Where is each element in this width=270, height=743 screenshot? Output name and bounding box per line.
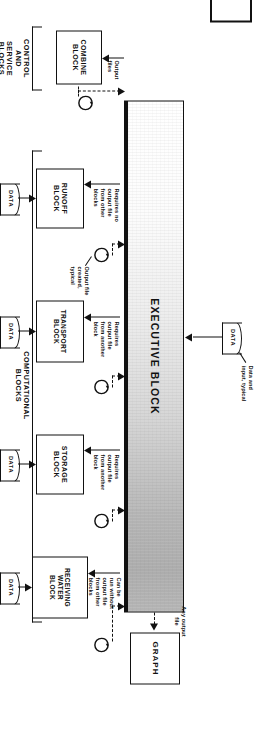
exec-to-graph-link xyxy=(154,612,155,624)
computational-bracket xyxy=(32,150,42,622)
requires-no-output-line2: output file xyxy=(106,188,113,244)
any-output-file-line2: file xyxy=(173,598,180,644)
data-input-line1: Data and xyxy=(247,365,254,435)
exec-to-runoff-line xyxy=(90,183,120,184)
exec-to-receiving-line xyxy=(94,572,120,573)
receiving-to-exec-dashed-h xyxy=(112,605,113,641)
output-files-line2: files xyxy=(106,60,113,100)
exec-to-transport-line xyxy=(90,316,120,317)
storage-block-label-line2: BLOCK xyxy=(52,451,60,478)
requires-output-line1: Requires xyxy=(113,454,120,512)
requires-output-line3: from another xyxy=(99,321,106,379)
combine-block-label-line1: COMBINE xyxy=(79,39,87,75)
receiving-tape-reel-icon xyxy=(93,636,110,653)
runoff-reel-leader xyxy=(85,256,92,266)
annotation-any-output-file: Any output file xyxy=(173,598,187,644)
transport-block-label-line2: BLOCK xyxy=(53,319,60,344)
exec-to-combine-line xyxy=(108,57,124,58)
transport-to-exec-dashed-h xyxy=(112,375,113,387)
diagram-canvas: EXECUTIVE BLOCK GRAPH Any output file DA… xyxy=(0,0,270,743)
runoff-block-label-line1: RUNOFF xyxy=(60,182,68,214)
any-output-file-line1: Any output xyxy=(180,598,187,644)
computational-line1: COMPUTATIONAL xyxy=(22,300,30,470)
computational-line2: BLOCKS xyxy=(13,300,21,470)
exec-to-storage-arrow xyxy=(84,446,91,454)
requires-no-output-line1: Requires no xyxy=(113,188,120,244)
exec-to-storage-line xyxy=(90,449,120,450)
requires-output-line2: output file xyxy=(106,454,113,512)
data-symbol-label: DATA xyxy=(230,322,236,352)
annotation-requires-output-storage: Requires output file from another block xyxy=(92,454,120,512)
executive-block: EXECUTIVE BLOCK xyxy=(124,100,184,612)
combine-to-exec-dashed-vert xyxy=(78,90,120,91)
storage-tape-reel-icon xyxy=(93,512,110,529)
exec-to-receiving-arrow xyxy=(88,569,95,577)
runoff-to-exec-arrow xyxy=(118,240,125,248)
group-label-control-service: CONTROL AND SERVICE BLOCKS xyxy=(0,10,30,106)
receiving-to-exec-arrow xyxy=(118,602,125,610)
receiving-water-block-label-line1: RECEIVING xyxy=(64,568,71,607)
annotation-requires-output-transport: Requires output file from another block xyxy=(92,321,120,379)
receiving-water-block-label-line2: WATER xyxy=(56,575,63,600)
runoff-to-exec-dashed-h xyxy=(112,243,113,255)
data-input-line2: input, typical xyxy=(240,365,247,435)
can-be-run-line3: output file xyxy=(101,577,108,629)
annotation-requires-no-output: Requires no output file from other block… xyxy=(92,188,120,244)
storage-block-label-line1: STORAGE xyxy=(60,445,68,482)
figure-stage: EXECUTIVE BLOCK GRAPH Any output file DA… xyxy=(0,0,270,743)
receiving-data-arrow xyxy=(25,583,32,591)
control-line3: SERVICE xyxy=(5,10,13,106)
storage-block: STORAGE BLOCK xyxy=(36,434,84,494)
combine-block: COMBINE BLOCK xyxy=(56,30,102,84)
control-service-bracket xyxy=(32,26,42,90)
exec-to-graph-arrow xyxy=(151,623,159,630)
storage-to-exec-dashed-h xyxy=(112,509,113,521)
receiving-water-block-label-line3: BLOCK xyxy=(49,575,56,600)
requires-output-line3: from another xyxy=(99,454,106,512)
cropped-frame-box xyxy=(210,0,252,22)
can-be-run-line5: blocks xyxy=(87,577,94,629)
combine-tape-reel-icon xyxy=(77,94,94,111)
group-label-computational: COMPUTATIONAL BLOCKS xyxy=(13,300,30,470)
data-symbol-executive: DATA xyxy=(223,322,242,352)
executive-block-label: EXECUTIVE BLOCK xyxy=(150,298,162,414)
runoff-tape-reel-icon xyxy=(93,246,110,263)
requires-no-output-line3: from other xyxy=(99,188,106,244)
combine-to-exec-arrow xyxy=(118,87,125,95)
exec-to-runoff-arrow xyxy=(84,180,91,188)
data-to-exec-arrow xyxy=(185,333,192,341)
graph-block-label: GRAPH xyxy=(151,641,160,675)
transport-block-label-line1: TRANSPORT xyxy=(60,309,67,353)
transport-tape-reel-icon xyxy=(93,378,110,395)
transport-to-exec-arrow xyxy=(118,372,125,380)
requires-output-line1: Requires xyxy=(113,321,120,379)
annotation-data-and-input-typical: Data and input, typical xyxy=(240,365,254,435)
data-leader-line xyxy=(239,352,246,363)
runoff-block: RUNOFF BLOCK xyxy=(36,168,84,228)
storage-to-exec-arrow xyxy=(118,506,125,514)
requires-output-line2: output file xyxy=(106,321,113,379)
annotation-can-be-run: Can be run without output file from othe… xyxy=(87,577,122,629)
transport-block: TRANSPORT BLOCK xyxy=(36,300,84,362)
control-line4: BLOCKS xyxy=(0,10,5,106)
requires-no-output-line4: blocks xyxy=(92,188,99,244)
can-be-run-line4: from other xyxy=(94,577,101,629)
requires-output-line4: block xyxy=(92,454,99,512)
requires-output-line4: block xyxy=(92,321,99,379)
data-symbol-label: DATA xyxy=(8,183,14,213)
runoff-block-label-line2: BLOCK xyxy=(52,185,60,212)
data-to-exec-line xyxy=(193,336,223,337)
data-symbol-label: DATA xyxy=(8,572,14,602)
exec-to-transport-arrow xyxy=(84,313,91,321)
control-line2: AND xyxy=(13,10,21,106)
control-line1: CONTROL xyxy=(22,10,30,106)
combine-block-label-line2: BLOCK xyxy=(71,44,79,71)
output-file-created-line1: Output file xyxy=(83,266,90,312)
